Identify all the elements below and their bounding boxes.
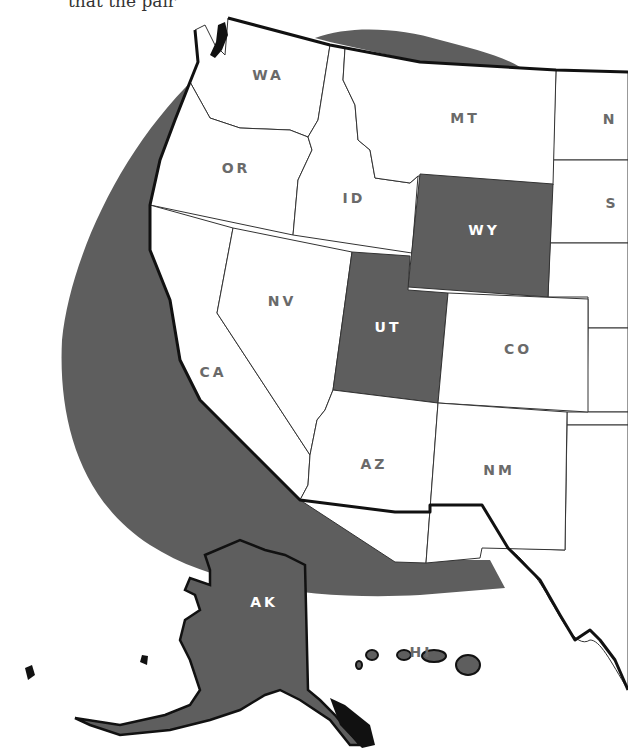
label-hi: HI [410, 644, 433, 660]
aleutian-island [25, 665, 35, 680]
label-ut: UT [375, 319, 402, 335]
label-wy: WY [468, 222, 500, 238]
label-ca: CA [199, 364, 226, 380]
label-nv: NV [268, 293, 297, 309]
state-ok-partial[interactable] [567, 412, 628, 425]
aleutian-island [140, 655, 148, 665]
label-or: OR [222, 160, 251, 176]
western-us-map: WA OR CA ID NV MT WY UT CO AZ NM AK HI N… [0, 0, 628, 755]
state-ks-partial[interactable] [587, 328, 628, 412]
label-wa: WA [252, 67, 284, 83]
label-nd-partial: N [603, 111, 618, 127]
label-az: AZ [361, 456, 388, 472]
label-ak: AK [250, 594, 278, 610]
label-sd-partial: S [605, 195, 618, 211]
label-nm: NM [483, 462, 515, 478]
label-mt: MT [450, 110, 479, 126]
label-co: CO [504, 341, 532, 357]
state-nm[interactable] [426, 403, 567, 563]
label-id: ID [343, 190, 366, 206]
